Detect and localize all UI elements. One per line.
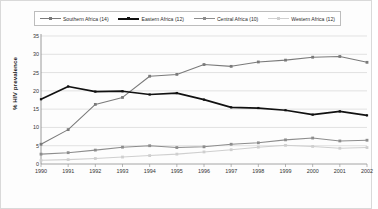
x-axis-tick-1999: 1999 <box>273 168 299 174</box>
data-point-1-10 <box>312 114 314 116</box>
x-axis-tick-1998: 1998 <box>245 168 271 174</box>
x-axis-tick-1990: 1990 <box>28 168 54 174</box>
data-point-3-4 <box>148 154 151 157</box>
data-point-2-11 <box>338 140 341 143</box>
legend-item-label: Eastern Africa (12) <box>141 16 184 22</box>
x-axis-tick-2000: 2000 <box>300 168 326 174</box>
data-point-1-3 <box>121 90 123 92</box>
x-axis-tick-1994: 1994 <box>137 168 163 174</box>
data-point-2-1 <box>67 151 70 154</box>
data-point-3-1 <box>67 158 70 161</box>
data-point-1-2 <box>94 90 96 92</box>
plot-area: % HIV prevalence 05101520253035199019911… <box>1 28 373 188</box>
legend-item-2[interactable]: Central Africa (10) <box>194 16 258 22</box>
data-point-0-6 <box>203 63 206 66</box>
legend-item-1[interactable]: Eastern Africa (12) <box>118 16 184 22</box>
y-axis-tick-5: 5 <box>25 143 39 149</box>
data-point-0-7 <box>230 65 233 68</box>
legend-item-3[interactable]: Western Africa (12) <box>268 16 335 22</box>
x-axis-tick-2002: 2002 <box>354 168 378 174</box>
data-point-3-2 <box>94 157 97 160</box>
data-point-0-12 <box>366 61 369 64</box>
data-point-3-7 <box>230 148 233 151</box>
x-axis-tick-1991: 1991 <box>55 168 81 174</box>
chart-legend: Southern Africa (14)Eastern Africa (12)C… <box>34 11 341 26</box>
legend-item-label: Southern Africa (14) <box>63 16 109 22</box>
data-point-2-12 <box>366 139 369 142</box>
data-point-0-3 <box>121 96 124 99</box>
data-point-1-9 <box>284 109 286 111</box>
data-point-0-5 <box>175 73 178 76</box>
data-point-2-3 <box>121 146 124 149</box>
data-point-3-9 <box>284 144 287 147</box>
data-point-0-1 <box>67 128 70 131</box>
data-point-0-2 <box>94 103 97 106</box>
y-axis-tick-35: 35 <box>25 33 39 39</box>
data-point-2-10 <box>311 137 314 140</box>
x-axis-tick-1995: 1995 <box>164 168 190 174</box>
data-point-0-4 <box>148 75 151 78</box>
data-point-1-4 <box>149 93 151 95</box>
x-axis-tick-1993: 1993 <box>110 168 136 174</box>
data-point-2-9 <box>284 138 287 141</box>
data-point-0-9 <box>284 59 287 62</box>
data-point-2-6 <box>203 145 206 148</box>
data-point-2-7 <box>230 143 233 146</box>
data-point-0-0 <box>40 143 43 146</box>
legend-item-label: Central Africa (10) <box>217 16 258 22</box>
legend-item-0[interactable]: Southern Africa (14) <box>40 16 109 22</box>
y-axis-tick-0: 0 <box>25 161 39 167</box>
y-axis-tick-20: 20 <box>25 88 39 94</box>
legend-swatch-icon <box>40 16 61 21</box>
data-point-3-3 <box>121 156 124 159</box>
data-point-1-5 <box>176 92 178 94</box>
legend-swatch-icon <box>194 16 215 21</box>
data-point-2-2 <box>94 149 97 152</box>
data-point-3-10 <box>311 145 314 148</box>
data-point-3-0 <box>40 159 43 162</box>
series-1 <box>40 85 368 116</box>
data-point-3-5 <box>175 153 178 156</box>
data-point-0-10 <box>311 56 314 59</box>
data-point-3-8 <box>257 146 260 149</box>
data-point-2-8 <box>257 141 260 144</box>
x-axis-tick-1992: 1992 <box>82 168 108 174</box>
x-axis-tick-1997: 1997 <box>218 168 244 174</box>
data-point-3-11 <box>338 147 341 150</box>
data-point-0-11 <box>338 55 341 58</box>
y-axis-tick-15: 15 <box>25 106 39 112</box>
data-point-2-5 <box>175 146 178 149</box>
legend-swatch-icon <box>118 16 139 21</box>
legend-item-label: Western Africa (12) <box>291 16 335 22</box>
data-point-1-1 <box>67 85 69 87</box>
x-axis-tick-2001: 2001 <box>327 168 353 174</box>
legend-swatch-icon <box>268 16 289 21</box>
data-point-2-0 <box>40 153 43 156</box>
data-point-3-6 <box>203 151 206 154</box>
data-point-0-8 <box>257 61 260 64</box>
data-point-1-8 <box>257 107 259 109</box>
chart-svg <box>1 28 373 188</box>
data-point-1-11 <box>339 110 341 112</box>
y-axis-tick-10: 10 <box>25 124 39 130</box>
data-point-1-6 <box>203 99 205 101</box>
data-point-1-0 <box>40 98 42 100</box>
data-point-1-12 <box>366 114 368 116</box>
x-axis-tick-1996: 1996 <box>191 168 217 174</box>
data-point-2-4 <box>148 144 151 147</box>
data-point-1-7 <box>230 106 232 108</box>
y-axis-tick-30: 30 <box>25 51 39 57</box>
data-point-3-12 <box>366 146 369 149</box>
y-axis-tick-25: 25 <box>25 70 39 76</box>
